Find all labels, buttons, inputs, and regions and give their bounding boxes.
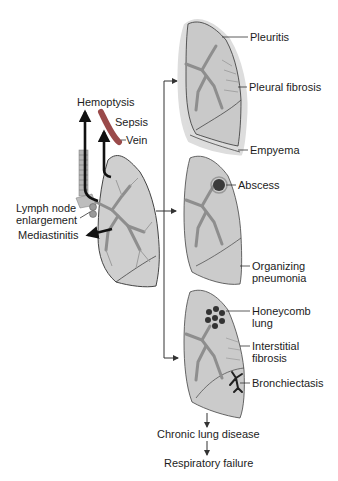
label-lymph-node-enlargement: Lymph node enlargement: [16, 202, 77, 226]
label-mediastinitis: Mediastinitis: [18, 229, 79, 241]
middle-lung: [184, 156, 242, 284]
label-sepsis: Sepsis: [115, 116, 148, 128]
label-honeycomb-lung: Honeycomb lung: [252, 305, 311, 329]
bottom-lung: [184, 290, 244, 418]
label-pleural-fibrosis: Pleural fibrosis: [249, 81, 321, 93]
label-hemoptysis: Hemoptysis: [77, 96, 134, 108]
connector-bracket: [156, 81, 178, 358]
label-empyema: Empyema: [250, 144, 300, 156]
lymph-node: [90, 204, 97, 211]
label-abscess: Abscess: [238, 179, 280, 191]
label-chronic-lung-disease: Chronic lung disease: [157, 428, 260, 440]
label-vein: Vein: [126, 134, 147, 146]
lymph-node: [90, 211, 97, 218]
label-bronchiectasis: Bronchiectasis: [252, 377, 324, 389]
label-organizing-pneumonia: Organizing pneumonia: [252, 260, 306, 284]
top-lung: [180, 22, 245, 153]
abscess: [213, 179, 225, 191]
label-respiratory-failure: Respiratory failure: [164, 457, 253, 469]
label-interstitial-fibrosis: Interstitial fibrosis: [252, 340, 299, 364]
label-pleuritis: Pleuritis: [250, 31, 289, 43]
trachea: [79, 150, 88, 196]
